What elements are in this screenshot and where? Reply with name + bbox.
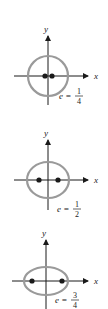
eccentricity-diagrams: x y e = 1 4 x y e = 1 2 x y e = 3 4 xyxy=(0,0,108,309)
eccentricity-numerator: 1 xyxy=(77,87,81,96)
focus-point xyxy=(29,278,34,283)
y-axis-label: y xyxy=(43,24,48,34)
eccentricity-label: e = xyxy=(59,91,71,101)
x-axis-label: x xyxy=(93,71,98,81)
eccentricity-label: e = xyxy=(57,204,69,214)
y-axis-label: y xyxy=(41,228,46,238)
diagram-ellipse-half: x y e = 1 2 xyxy=(14,128,98,219)
eccentricity-denominator: 2 xyxy=(75,210,79,219)
focus-point xyxy=(42,73,47,78)
eccentricity-numerator: 1 xyxy=(75,200,79,209)
eccentricity-numerator: 3 xyxy=(73,291,77,300)
focus-point xyxy=(55,177,60,182)
y-axis-label: y xyxy=(43,128,48,138)
diagram-circle: x y e = 1 4 xyxy=(14,24,98,106)
focus-point xyxy=(49,73,54,78)
eccentricity-label: e = xyxy=(55,295,67,305)
x-axis-label: x xyxy=(93,276,98,286)
x-axis-label: x xyxy=(93,175,98,185)
focus-point xyxy=(59,278,64,283)
eccentricity-denominator: 4 xyxy=(77,97,81,106)
focus-point xyxy=(36,177,41,182)
diagram-ellipse-three-quarter: x y e = 3 4 xyxy=(12,228,98,309)
eccentricity-denominator: 4 xyxy=(73,301,77,309)
